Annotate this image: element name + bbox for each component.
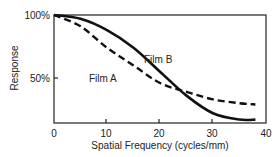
x-tick-label-30: 30: [206, 128, 218, 139]
y-axis-title: Response: [9, 45, 20, 90]
x-tick-label-0: 0: [51, 128, 57, 139]
y-tick-label-50: 50%: [30, 73, 50, 84]
film-b-curve: [54, 15, 255, 120]
film-b-label: Film B: [144, 54, 173, 65]
x-tick-label-20: 20: [153, 128, 165, 139]
film-a-label: Film A: [89, 73, 117, 84]
mtf-chart: 100% 50% 0 10 20 30 40 Spatial Frequency…: [0, 0, 280, 157]
y-tick-label-100: 100%: [24, 10, 50, 21]
x-tick-label-40: 40: [260, 128, 272, 139]
x-axis-title: Spatial Frequency (cycles/mm): [91, 140, 228, 151]
x-tick-label-10: 10: [100, 128, 112, 139]
